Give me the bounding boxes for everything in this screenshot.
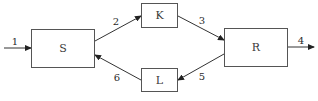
node-r-label: R: [252, 41, 261, 54]
edge-2: 2: [95, 16, 141, 41]
edge-label-1: 1: [12, 36, 18, 47]
node-r: R: [225, 29, 288, 67]
edge-6: 6: [95, 55, 141, 83]
node-s-label: S: [59, 42, 67, 55]
edge-label-6: 6: [114, 72, 120, 83]
edge-5: 5: [178, 54, 224, 82]
node-l-label: L: [156, 74, 164, 87]
node-k-label: K: [155, 9, 164, 22]
node-k: K: [142, 4, 178, 28]
edge-label-4: 4: [298, 35, 304, 46]
edge-label-2: 2: [113, 16, 119, 27]
flow-diagram: 1 2 3 4 5 6 S K L R: [0, 0, 318, 101]
edge-label-5: 5: [199, 71, 205, 82]
edge-label-3: 3: [199, 15, 205, 26]
edge-4: 4: [288, 35, 314, 47]
edge-1: 1: [4, 36, 31, 48]
node-l: L: [142, 69, 178, 92]
node-s: S: [32, 30, 95, 68]
edge-3: 3: [178, 15, 224, 40]
